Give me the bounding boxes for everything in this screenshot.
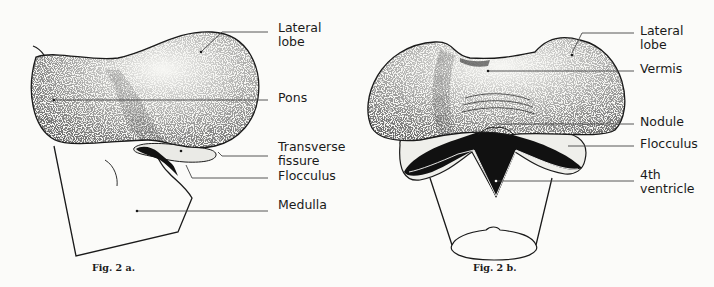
label-2b-vermis: Vermis	[640, 62, 682, 76]
medulla-shape	[54, 146, 192, 256]
label-2a-pons: Pons	[278, 91, 307, 105]
caption-fig-2b: Fig. 2 b.	[473, 262, 516, 273]
label-2b-flocculus: Flocculus	[640, 137, 698, 151]
figure-2a-drawing	[20, 20, 280, 256]
cerebellum-diagram	[0, 0, 714, 287]
label-2b-lateral-lobe: Lateral lobe	[640, 24, 684, 52]
label-2b-nodule: Nodule	[640, 115, 684, 129]
label-2b-4th-ventricle: 4th ventricle	[640, 168, 695, 196]
figure-2b-drawing	[350, 30, 650, 260]
caption-fig-2a: Fig. 2 a.	[92, 262, 135, 273]
label-2a-lateral-lobe: Lateral lobe	[278, 21, 322, 49]
label-2a-flocculus: Flocculus	[278, 169, 336, 183]
label-2a-medulla: Medulla	[278, 198, 327, 212]
label-2a-transverse-fissure: Transverse fissure	[278, 140, 345, 168]
